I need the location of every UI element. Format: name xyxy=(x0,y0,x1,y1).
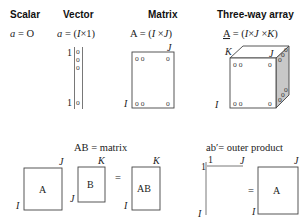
cube-dim-J: J xyxy=(269,48,274,59)
svg-text:a = (I×1): a = (I×1) xyxy=(57,28,96,40)
matrix-dim-I: I xyxy=(123,98,128,109)
product-figure: A J I B K J = AB K I xyxy=(15,155,161,211)
vector-equation: a = (I×1) xyxy=(57,28,96,40)
svg-text:K: K xyxy=(97,155,106,166)
svg-text:a = O: a = O xyxy=(10,28,34,39)
svg-text:AB: AB xyxy=(137,183,151,194)
svg-text:o o: o o xyxy=(233,99,243,108)
threeway-equation: A = (I×J ×K) xyxy=(223,28,278,40)
svg-text:o: o xyxy=(166,99,170,108)
svg-text:A: A xyxy=(273,185,281,196)
vector-index-1-top: 1 xyxy=(67,47,72,58)
svg-text:J: J xyxy=(70,193,75,204)
svg-text:o: o xyxy=(284,85,288,94)
svg-text:A = (I ×J): A = (I ×J) xyxy=(130,28,172,40)
svg-text:o: o xyxy=(76,98,80,107)
header-matrix: Matrix xyxy=(148,9,178,20)
tensor-diagram: Scalar Vector Matrix Three-way array a =… xyxy=(0,0,306,220)
svg-text:A = (I×J ×K): A = (I×J ×K) xyxy=(223,28,278,40)
header-three-way-array: Three-way array xyxy=(217,9,294,20)
svg-text:o o: o o xyxy=(135,54,145,63)
svg-text:1: 1 xyxy=(201,161,206,172)
svg-text:K: K xyxy=(152,155,161,166)
scalar-equation: a = O xyxy=(10,28,34,39)
matrix-equation: A = (I ×J) xyxy=(130,28,172,40)
svg-text:o o: o o xyxy=(135,99,145,108)
outer-product-figure: 1 1 J I = A J I xyxy=(197,154,299,219)
matrix-figure: J I o o o o o o xyxy=(123,42,174,109)
svg-text:1: 1 xyxy=(208,154,213,165)
svg-text:I: I xyxy=(251,206,256,217)
header-vector: Vector xyxy=(63,9,94,20)
svg-text:J: J xyxy=(59,156,64,167)
svg-text:J: J xyxy=(240,155,245,166)
svg-text:I: I xyxy=(123,200,128,211)
vector-figure: 1 1 o o o o xyxy=(67,47,83,109)
svg-text:B: B xyxy=(87,179,94,190)
svg-text:o: o xyxy=(166,54,170,63)
svg-text:J: J xyxy=(294,155,299,166)
svg-text:o o: o o xyxy=(233,60,243,69)
svg-text:I: I xyxy=(197,208,202,219)
svg-text:I: I xyxy=(15,200,20,211)
outer-product-title: ab′= outer product xyxy=(206,142,283,153)
cube-dim-K: K xyxy=(224,46,233,57)
svg-text:=: = xyxy=(115,172,121,183)
svg-text:A: A xyxy=(39,184,47,195)
svg-text:o: o xyxy=(268,60,272,69)
cube-dim-I: I xyxy=(214,99,219,110)
three-way-array-figure: K J I o o o o o o o o o o o o xyxy=(214,45,289,110)
svg-text:=: = xyxy=(248,185,254,196)
header-scalar: Scalar xyxy=(10,9,40,20)
vector-index-1-bottom: 1 xyxy=(67,97,72,108)
product-title: AB = matrix xyxy=(74,142,128,153)
svg-text:o: o xyxy=(268,99,272,108)
svg-text:o: o xyxy=(76,63,80,72)
svg-text:o: o xyxy=(284,45,288,54)
matrix-dim-J: J xyxy=(167,42,172,53)
